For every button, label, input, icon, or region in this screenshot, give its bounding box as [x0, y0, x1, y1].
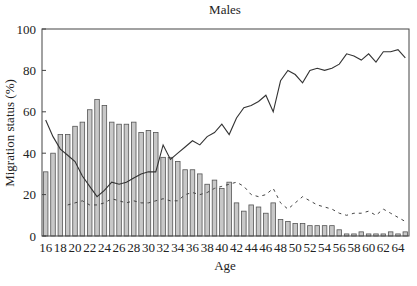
bar	[168, 157, 173, 236]
bar	[308, 226, 313, 236]
bar	[315, 226, 320, 236]
bar	[293, 224, 298, 236]
x-tick-label: 40	[215, 240, 228, 255]
bar	[337, 230, 342, 236]
bar	[139, 133, 144, 237]
bar	[43, 172, 48, 236]
x-tick-label: 64	[391, 240, 405, 255]
y-tick-label: 60	[23, 104, 36, 119]
y-axis-label: Migration status (%)	[2, 79, 17, 187]
x-tick-label: 48	[274, 240, 287, 255]
bar	[124, 124, 129, 236]
bar	[87, 110, 92, 236]
bar	[388, 232, 393, 236]
bar	[359, 232, 364, 236]
bar	[176, 161, 181, 236]
chart-title: Males	[209, 2, 241, 17]
x-tick-label: 30	[142, 240, 155, 255]
x-tick-label: 32	[157, 240, 170, 255]
x-tick-label: 28	[127, 240, 140, 255]
bar	[51, 153, 56, 236]
bar	[278, 219, 283, 236]
x-tick-label: 16	[39, 240, 53, 255]
bar	[109, 122, 114, 236]
bar	[95, 99, 100, 236]
x-tick-label: 56	[333, 240, 347, 255]
x-tick-label: 52	[303, 240, 316, 255]
bar	[403, 232, 408, 236]
x-tick-label: 54	[318, 240, 332, 255]
x-tick-label: 22	[83, 240, 96, 255]
bar	[183, 170, 188, 236]
bar	[234, 203, 239, 236]
x-tick-label: 24	[98, 240, 112, 255]
bar	[286, 222, 291, 236]
chart: Males 020406080100 161820222426283032343…	[0, 0, 417, 286]
bar	[161, 157, 166, 236]
x-tick-label: 46	[259, 240, 273, 255]
x-axis: 1618202224262830323436384042444648505254…	[39, 240, 405, 255]
x-tick-label: 62	[377, 240, 390, 255]
bar	[249, 205, 254, 236]
bar	[198, 174, 203, 236]
bar	[190, 170, 195, 236]
y-tick-label: 0	[30, 229, 37, 244]
x-tick-label: 20	[69, 240, 82, 255]
y-tick-label: 80	[23, 63, 36, 78]
x-tick-label: 34	[171, 240, 185, 255]
bar	[256, 207, 261, 236]
x-tick-label: 42	[230, 240, 243, 255]
bar	[322, 226, 327, 236]
x-axis-label: Age	[214, 258, 236, 273]
y-tick-label: 40	[23, 146, 36, 161]
x-tick-label: 44	[245, 240, 259, 255]
x-tick-label: 26	[113, 240, 127, 255]
bar	[242, 211, 247, 236]
x-tick-label: 38	[201, 240, 214, 255]
bar	[117, 124, 122, 236]
bar	[264, 213, 269, 236]
bar	[153, 133, 158, 237]
x-tick-label: 58	[347, 240, 360, 255]
bar	[102, 106, 107, 236]
bar	[300, 224, 305, 236]
bar	[271, 203, 276, 236]
x-tick-label: 50	[289, 240, 302, 255]
x-tick-label: 18	[54, 240, 67, 255]
y-tick-label: 100	[17, 22, 37, 37]
bar	[227, 182, 232, 236]
bar-series	[43, 99, 407, 236]
x-tick-label: 36	[186, 240, 200, 255]
bar	[220, 188, 225, 236]
bar	[73, 126, 78, 236]
y-tick-label: 20	[23, 187, 36, 202]
bar	[146, 130, 151, 236]
x-tick-label: 60	[362, 240, 375, 255]
bar	[65, 135, 70, 236]
bar	[330, 226, 335, 236]
